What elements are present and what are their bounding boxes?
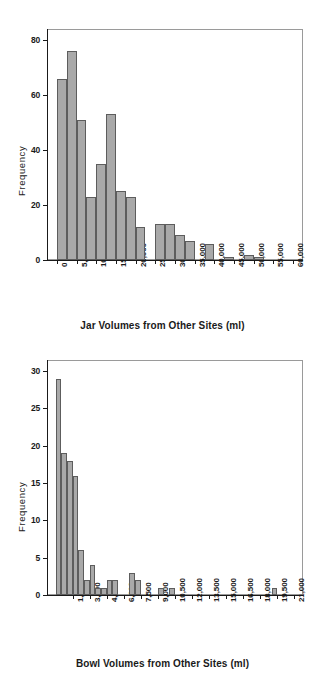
bowl-y-tick-mark (43, 446, 47, 447)
histogram-bar (126, 197, 136, 260)
jar-y-tick-label: 20 (17, 200, 40, 210)
histogram-bar (112, 580, 118, 595)
bowl-x-tick-mark (124, 595, 125, 599)
bowl-x-tick-mark (107, 595, 108, 599)
jar-x-tick-mark (195, 260, 196, 264)
jar-x-tick-mark (234, 260, 235, 264)
jar-x-tick-mark (175, 260, 176, 264)
histogram-bar (185, 241, 195, 260)
histogram-bar (158, 588, 164, 595)
bowl-y-tick-label: 15 (17, 478, 40, 488)
bowl-x-tick-mark (226, 595, 227, 599)
bowl-x-tick-mark (192, 595, 193, 599)
bowl-x-tick-mark (260, 595, 261, 599)
histogram-bar (254, 257, 264, 260)
jar-y-tick-mark (43, 40, 47, 41)
histogram-bar (106, 114, 116, 260)
bowl-x-tick-mark (73, 595, 74, 599)
jar-x-tick-mark (214, 260, 215, 264)
bowl-y-tick-label: 0 (17, 590, 40, 600)
jar-y-tick-mark (43, 95, 47, 96)
jar-x-tick-mark (77, 260, 78, 264)
histogram-bar (67, 51, 77, 260)
histogram-bar (205, 244, 215, 261)
histogram-bar (224, 257, 234, 260)
bowl-y-tick-label: 5 (17, 553, 40, 563)
bowl-y-tick-mark (43, 371, 47, 372)
bowl-x-tick-label: 7,500 (144, 582, 153, 602)
bowl-x-tick-label: 12,000 (195, 578, 204, 602)
jar-volumes-histogram-figure: Frequency Jar Volumes from Other Sites (… (0, 0, 325, 342)
bowl-plot-frame (47, 360, 303, 595)
histogram-bar (155, 224, 165, 260)
bowl-x-tick-label: 15,000 (229, 578, 238, 602)
jar-x-axis-title: Jar Volumes from Other Sites (ml) (0, 320, 325, 331)
histogram-bar (136, 227, 146, 260)
bowl-x-tick-mark (175, 595, 176, 599)
histogram-bar (135, 580, 141, 595)
bowl-x-tick-label: 21,000 (297, 578, 306, 602)
jar-y-tick-mark (43, 205, 47, 206)
bowl-x-tick-label: 16,500 (246, 578, 255, 602)
bowl-y-tick-label: 10 (17, 515, 40, 525)
bowl-x-tick-label: 10,500 (178, 578, 187, 602)
histogram-bar (77, 120, 87, 260)
jar-x-tick-mark (273, 260, 274, 264)
bowl-y-tick-mark (43, 483, 47, 484)
jar-x-tick-mark (57, 260, 58, 264)
bowl-x-tick-mark (277, 595, 278, 599)
histogram-bar (169, 588, 175, 595)
histogram-bar (175, 235, 185, 260)
bowl-y-axis-line (47, 360, 48, 595)
bowl-y-tick-mark (43, 558, 47, 559)
jar-y-tick-label: 80 (17, 35, 40, 45)
bowl-y-tick-label: 20 (17, 441, 40, 451)
jar-y-tick-label: 60 (17, 90, 40, 100)
jar-y-tick-label: 0 (17, 255, 40, 265)
jar-x-tick-mark (254, 260, 255, 264)
jar-x-tick-label: 55,000 (276, 243, 285, 267)
jar-x-tick-label: 0 (60, 263, 69, 267)
jar-y-axis-line (47, 29, 48, 260)
histogram-bar (96, 164, 106, 260)
bowl-x-tick-mark (243, 595, 244, 599)
histogram-bar (86, 197, 96, 260)
jar-x-tick-mark (293, 260, 294, 264)
jar-x-tick-label: 40,000 (217, 243, 226, 267)
bowl-x-tick-label: 13,500 (212, 578, 221, 602)
jar-x-tick-mark (136, 260, 137, 264)
bowl-x-tick-label: 19,500 (280, 578, 289, 602)
jar-y-tick-label: 40 (17, 145, 40, 155)
bowl-y-tick-mark (43, 408, 47, 409)
bowl-volumes-histogram-figure: Frequency Bowl Volumes from Other Sites … (0, 342, 325, 685)
histogram-bar (165, 224, 175, 260)
jar-x-tick-label: 50,000 (257, 243, 266, 267)
jar-x-tick-mark (116, 260, 117, 264)
jar-x-tick-label: 60,000 (296, 243, 305, 267)
bowl-x-tick-mark (294, 595, 295, 599)
jar-x-tick-mark (96, 260, 97, 264)
bowl-y-tick-mark (43, 595, 47, 596)
bowl-x-tick-mark (141, 595, 142, 599)
histogram-bar (57, 79, 67, 261)
bowl-y-tick-mark (43, 520, 47, 521)
bowl-x-tick-mark (90, 595, 91, 599)
jar-y-tick-mark (43, 260, 47, 261)
jar-y-tick-mark (43, 150, 47, 151)
bowl-x-axis-title: Bowl Volumes from Other Sites (ml) (0, 658, 325, 669)
bowl-x-tick-mark (158, 595, 159, 599)
bowl-y-tick-label: 30 (17, 366, 40, 376)
bowl-y-tick-label: 25 (17, 403, 40, 413)
histogram-bar (116, 191, 126, 260)
histogram-bar (244, 255, 254, 261)
jar-x-tick-mark (155, 260, 156, 264)
histogram-bar (272, 588, 278, 595)
bowl-x-tick-mark (209, 595, 210, 599)
